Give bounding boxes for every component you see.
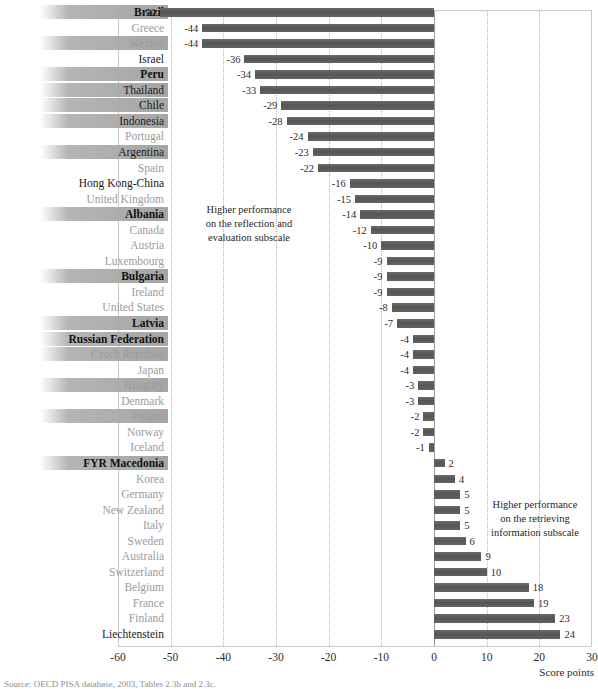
chart-row: Liechtenstein24: [0, 626, 598, 643]
chart-row: Peru-34: [0, 66, 598, 83]
bar: [308, 132, 434, 141]
category-label: Hong Kong-China: [0, 175, 166, 192]
category-label: Hungary: [0, 377, 166, 394]
bar: [434, 614, 555, 623]
bar: [387, 272, 434, 281]
bar: [434, 583, 529, 592]
bar: [397, 319, 434, 328]
chart-row: Russian Federation-4: [0, 331, 598, 348]
bar: [434, 459, 445, 468]
x-axis-tick-label: -60: [88, 651, 148, 663]
chart-row: Hong Kong-China-16: [0, 175, 598, 192]
bar-value-label: -12: [325, 222, 367, 239]
chart-row: Greece-44: [0, 20, 598, 37]
category-label: United States: [0, 299, 166, 316]
bar-value-label: -4: [367, 331, 409, 348]
x-axis-tick-label: 0: [404, 651, 464, 663]
chart-row: Portugal-24: [0, 128, 598, 145]
bar: [423, 428, 434, 437]
bar: [260, 86, 434, 95]
chart-row: Chile-29: [0, 97, 598, 114]
bar: [434, 599, 534, 608]
bar-value-label: -8: [346, 299, 388, 316]
bar-value-label: -4: [367, 362, 409, 379]
category-label: Spain: [0, 160, 166, 177]
bar-value-label: -7: [351, 315, 393, 332]
x-axis-tick-label: -30: [246, 651, 306, 663]
bar-value-label: 24: [564, 626, 598, 643]
bar: [355, 195, 434, 204]
bar: [381, 241, 434, 250]
bar-value-label: 18: [533, 579, 575, 596]
category-label: Austria: [0, 237, 166, 254]
bar-value-label: -9: [341, 284, 383, 301]
bar: [418, 397, 434, 406]
category-label: FYR Macedonia: [0, 455, 166, 472]
category-label: Greece: [0, 20, 166, 37]
bar: [244, 55, 434, 64]
category-label: Luxembourg: [0, 253, 166, 270]
x-axis-tick-label: -20: [299, 651, 359, 663]
bar: [434, 475, 455, 484]
bar: [287, 117, 434, 126]
annotation-reflection-evaluation: Higher performance on the reflection and…: [170, 203, 328, 245]
bar: [418, 381, 434, 390]
bar: [429, 443, 434, 452]
bar-value-label: 9: [485, 548, 527, 565]
category-label: Thailand: [0, 82, 166, 99]
chart-row: Thailand-33: [0, 82, 598, 99]
chart-row: United States-8: [0, 299, 598, 316]
bar: [413, 335, 434, 344]
chart-row: Norway-2: [0, 424, 598, 441]
bar-value-label: 4: [459, 471, 501, 488]
chart-row: Ireland-9: [0, 284, 598, 301]
chart-row: Finland23: [0, 610, 598, 627]
bar-value-label: -9: [341, 268, 383, 285]
bar-value-label: -1: [383, 439, 425, 456]
chart-row: Iceland-1: [0, 439, 598, 456]
bar: [434, 537, 466, 546]
bar: [387, 288, 434, 297]
category-label: Sweden: [0, 533, 166, 550]
bar-value-label: -4: [367, 346, 409, 363]
category-label: Chile: [0, 97, 166, 114]
chart-row: Switzerland10: [0, 564, 598, 581]
bar-value-label: -2: [377, 424, 419, 441]
bar: [281, 101, 434, 110]
chart-row: Argentina-23: [0, 144, 598, 161]
bar-value-label: -16: [304, 175, 346, 192]
category-label: New Zealand: [0, 502, 166, 519]
category-label: Ireland: [0, 284, 166, 301]
category-label: Mexico: [0, 35, 166, 52]
category-label: Israel: [0, 51, 166, 68]
bar-value-label: -3: [372, 393, 414, 410]
category-label: Indonesia: [0, 113, 166, 130]
chart-row: Japan-4: [0, 362, 598, 379]
chart-row: FYR Macedonia2: [0, 455, 598, 472]
category-label: United Kingdom: [0, 191, 166, 208]
category-label: Portugal: [0, 128, 166, 145]
chart-row: Luxembourg-9: [0, 253, 598, 270]
x-axis-title: Score points: [539, 666, 594, 678]
chart-row: Spain-22: [0, 160, 598, 177]
bar-value-label: 23: [559, 610, 598, 627]
bar-value-label: -36: [198, 51, 240, 68]
bar-value-label: -24: [262, 128, 304, 145]
category-label: Denmark: [0, 393, 166, 410]
bar: [350, 179, 434, 188]
x-axis-tick-label: -40: [193, 651, 253, 663]
category-label: Norway: [0, 424, 166, 441]
bar-value-label: -52: [114, 4, 156, 21]
chart-row: Korea4: [0, 471, 598, 488]
category-label: Latvia: [0, 315, 166, 332]
chart-row: France19: [0, 595, 598, 612]
x-axis-tick-label: 30: [562, 651, 598, 663]
bar: [434, 630, 560, 639]
category-label: Bulgaria: [0, 268, 166, 285]
bar-value-label: -3: [372, 377, 414, 394]
category-label: Italy: [0, 517, 166, 534]
category-label: Japan: [0, 362, 166, 379]
bar: [371, 226, 434, 235]
bar-value-label: -34: [209, 66, 251, 83]
